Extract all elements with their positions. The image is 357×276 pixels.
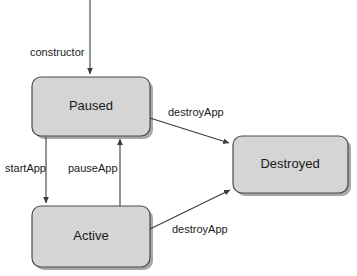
state-diagram-svg: Paused Active Destroyed constructor star… [0,0,357,276]
state-diagram-canvas: Paused Active Destroyed constructor star… [0,0,357,276]
transition-label-start-app: startApp [5,162,46,174]
transition-label-destroy-app-from-paused: destroyApp [168,106,224,118]
transition-label-constructor: constructor [30,46,85,58]
state-label-active: Active [73,228,108,243]
transition-label-pause-app: pauseApp [68,162,118,174]
transition-label-destroy-app-from-active: destroyApp [172,223,228,235]
edge-destroy-app-from-paused[interactable] [150,118,229,143]
state-label-paused: Paused [69,98,113,113]
state-label-destroyed: Destroyed [260,156,319,171]
